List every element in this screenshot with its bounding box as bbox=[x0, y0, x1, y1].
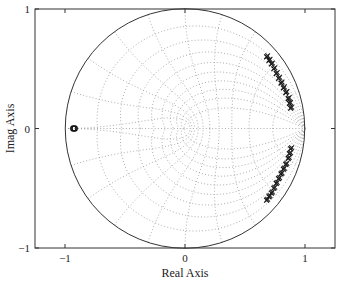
natural-frequency-curve bbox=[65, 129, 190, 140]
pole-zero-plot: −101−101 Real Axis Imag Axis bbox=[0, 0, 344, 284]
damping-ratio-line bbox=[162, 129, 305, 186]
natural-frequency-curve bbox=[71, 92, 192, 129]
damping-ratio-line bbox=[121, 40, 306, 129]
natural-frequency-curve bbox=[215, 15, 223, 129]
y-tick-label: 1 bbox=[25, 3, 31, 15]
natural-frequency-curve bbox=[185, 9, 210, 129]
natural-frequency-curve bbox=[148, 15, 203, 129]
x-tick-label: 0 bbox=[182, 252, 188, 264]
damping-ratio-line bbox=[152, 129, 305, 195]
natural-frequency-curve bbox=[115, 32, 199, 129]
damping-ratio-line bbox=[97, 26, 305, 129]
natural-frequency-curve bbox=[249, 129, 282, 199]
natural-frequency-curve bbox=[185, 129, 210, 249]
natural-frequency-curve bbox=[232, 129, 256, 226]
y-tick-label: −1 bbox=[18, 242, 30, 254]
damping-ratio-line bbox=[97, 129, 305, 232]
x-tick-label: 1 bbox=[302, 252, 308, 264]
natural-frequency-curve bbox=[88, 129, 195, 199]
y-tick-label: 0 bbox=[25, 123, 31, 135]
natural-frequency-curve bbox=[215, 129, 223, 243]
natural-frequency-curve bbox=[65, 118, 190, 129]
natural-frequency-curve bbox=[71, 129, 192, 166]
damping-ratio-line bbox=[121, 129, 306, 218]
natural-frequency-curve bbox=[232, 32, 256, 129]
damping-ratio-line bbox=[138, 129, 305, 206]
data-points bbox=[71, 53, 294, 202]
damping-ratio-line bbox=[152, 63, 305, 129]
damping-ratio-line bbox=[181, 129, 305, 159]
x-tick-label: −1 bbox=[59, 252, 71, 264]
natural-frequency-curve bbox=[88, 58, 195, 128]
damping-ratio-line bbox=[138, 52, 305, 129]
x-axis-label: Real Axis bbox=[162, 266, 209, 280]
damping-ratio-line bbox=[184, 129, 305, 150]
zplane-grid bbox=[65, 9, 305, 248]
damping-ratio-line bbox=[184, 108, 305, 129]
damping-ratio-line bbox=[181, 98, 305, 128]
natural-frequency-curve bbox=[115, 129, 199, 226]
natural-frequency-curve bbox=[249, 58, 282, 128]
y-axis-label: Imag Axis bbox=[3, 103, 17, 153]
natural-frequency-curve bbox=[148, 129, 203, 243]
